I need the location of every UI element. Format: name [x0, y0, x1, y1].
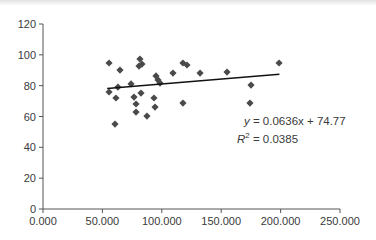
x-tick-label: 50.000: [86, 215, 120, 227]
data-point-diamond: [132, 108, 139, 115]
x-tick-label: 200.000: [261, 215, 301, 227]
data-point-diamond: [150, 94, 157, 101]
y-tick-label: 0: [30, 203, 36, 215]
y-tick-label: 60: [24, 111, 36, 123]
y-tick-label: 40: [24, 141, 36, 153]
equation-text: = 0.0636x + 74.77: [250, 115, 346, 127]
trendline: [107, 74, 279, 88]
y-tick-label: 100: [18, 49, 36, 61]
data-point-diamond: [179, 99, 186, 106]
x-tick-label: 100.000: [142, 215, 182, 227]
r2-text: = 0.0385: [250, 133, 298, 145]
data-point-diamond: [247, 81, 254, 88]
data-point-diamond: [116, 66, 123, 73]
y-tick-label: 20: [24, 172, 36, 184]
data-point-diamond: [112, 94, 119, 101]
data-point-diamond: [105, 59, 112, 66]
data-point-diamond: [169, 69, 176, 76]
y-tick-label: 120: [18, 18, 36, 30]
data-point-diamond: [111, 120, 118, 127]
data-point-diamond: [246, 99, 253, 106]
data-point-diamond: [132, 100, 139, 107]
x-tick-label: 0.000: [29, 215, 57, 227]
data-point-diamond: [223, 69, 230, 76]
data-point-diamond: [137, 89, 144, 96]
data-point-diamond: [151, 103, 158, 110]
y-tick-label: 80: [24, 80, 36, 92]
data-point-diamond: [105, 88, 112, 95]
trendline-equation: y = 0.0636x + 74.77: [244, 115, 346, 128]
data-point-diamond: [196, 69, 203, 76]
data-point-diamond: [130, 93, 137, 100]
data-point-diamond: [143, 112, 150, 119]
x-tick-label: 150.000: [201, 215, 241, 227]
r-squared-label: R2 = 0.0385: [237, 129, 298, 146]
x-tick-label: 250.000: [320, 215, 360, 227]
data-point-diamond: [275, 59, 282, 66]
